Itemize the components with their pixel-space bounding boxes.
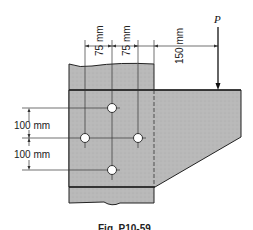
bracket-plate bbox=[69, 90, 241, 187]
dim-150mm: 150 mm bbox=[174, 28, 185, 64]
dim-100mm-2: 100 mm bbox=[14, 149, 50, 160]
dim-75mm-1: 75 mm bbox=[94, 25, 105, 56]
dim-100mm-1: 100 mm bbox=[14, 120, 50, 131]
figure-caption: Fig. P10-59 bbox=[98, 223, 151, 230]
bolt-icon bbox=[108, 166, 117, 175]
dim-75mm-2: 75 mm bbox=[121, 25, 132, 56]
bolt-icon bbox=[81, 134, 90, 143]
arrowhead-icon bbox=[216, 83, 221, 90]
bolt-icon bbox=[108, 104, 117, 113]
load-label: P bbox=[213, 13, 221, 25]
bolt-icon bbox=[134, 134, 143, 143]
bracket-connection-diagram: 75 mm 75 mm 150 mm 100 mm 100 mm P Fig. … bbox=[0, 0, 253, 230]
